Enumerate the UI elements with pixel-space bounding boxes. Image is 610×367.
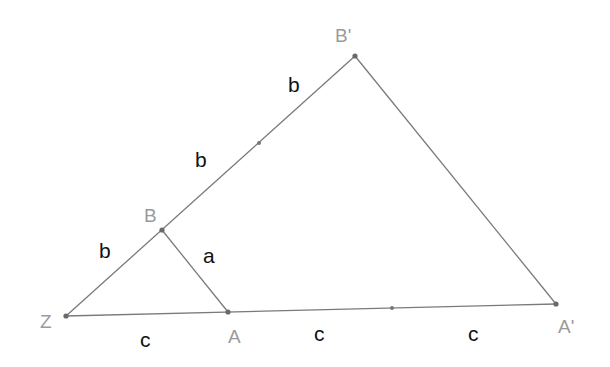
- segment-z-b-prime: [66, 56, 355, 316]
- segment-b-prime-a-prime: [355, 56, 556, 304]
- midpoint-a-a-prime: [390, 306, 394, 310]
- label-segment-ba: a: [203, 244, 215, 267]
- point-a-prime: [553, 301, 558, 306]
- label-a: A: [228, 326, 241, 347]
- label-segment-za: c: [140, 328, 151, 351]
- similar-triangles-diagram: Z B A B' A' b b b a c c c: [0, 0, 610, 367]
- point-b-prime: [352, 53, 357, 58]
- label-a-prime: A': [558, 316, 574, 337]
- label-segment-b-m1: b: [195, 148, 207, 171]
- label-b-prime: B': [335, 25, 351, 46]
- point-b: [159, 227, 164, 232]
- point-a: [225, 309, 230, 314]
- label-segment-zb: b: [99, 239, 111, 262]
- point-z: [63, 313, 68, 318]
- midpoint-b-b-prime: [257, 141, 261, 145]
- label-b: B: [144, 205, 157, 226]
- label-segment-m1-b-prime: b: [288, 73, 300, 96]
- label-z: Z: [40, 311, 52, 332]
- segment-z-a-prime: [66, 304, 556, 316]
- segment-b-a: [162, 230, 228, 312]
- label-segment-a-m2: c: [314, 322, 325, 345]
- label-segment-m2-a-prime: c: [468, 322, 479, 345]
